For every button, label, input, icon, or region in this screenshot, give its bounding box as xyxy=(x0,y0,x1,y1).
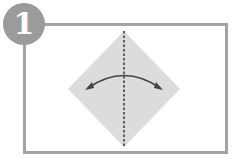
step-number: 1 xyxy=(14,9,35,39)
step-number-badge: 1 xyxy=(3,3,45,45)
paper-diamond xyxy=(68,31,180,147)
